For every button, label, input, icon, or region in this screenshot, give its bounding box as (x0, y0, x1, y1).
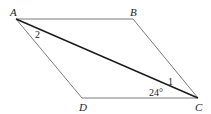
parallelogram-diagram: A B C D 2 1 24° (0, 0, 211, 114)
angle-24-label: 24° (149, 87, 163, 98)
side-da (16, 19, 82, 98)
angle-1-label: 1 (168, 76, 173, 87)
vertex-label-c: C (195, 101, 203, 113)
side-bc (133, 19, 198, 98)
vertex-label-b: B (130, 6, 137, 18)
angle-2-label: 2 (35, 29, 40, 40)
vertex-label-d: D (78, 101, 87, 113)
vertex-label-a: A (9, 6, 17, 18)
